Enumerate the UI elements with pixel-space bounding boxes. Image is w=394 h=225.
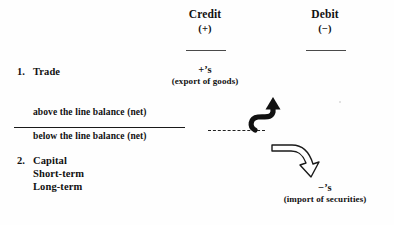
balance-divider-rule (14, 127, 185, 128)
column-header-credit: Credit (189, 8, 221, 20)
credit-column-rule (186, 50, 226, 51)
row-1-credit-entry: +’s (198, 64, 211, 75)
solid-curved-arrow-up-left-icon (246, 94, 290, 134)
column-header-debit: Debit (311, 8, 338, 20)
row-1-label: Trade (33, 66, 60, 77)
outline-curved-arrow-down-right-icon (268, 140, 324, 182)
figure-canvas: Credit (+) Debit (−) 1. Trade +’s (expor… (0, 0, 394, 225)
row-1-credit-note: (export of goods) (172, 76, 239, 86)
column-sign-credit: (+) (198, 23, 211, 34)
debit-column-rule (306, 50, 346, 51)
column-sign-debit: (−) (318, 23, 331, 34)
row-2-sublabel-short-term: Short-term (33, 168, 84, 179)
below-the-line-balance-label: below the line balance (net) (33, 131, 147, 141)
row-2-sublabel-long-term: Long-term (33, 181, 82, 192)
row-2-debit-note: (import of securities) (284, 194, 367, 204)
scan-artifact-speck (339, 101, 341, 103)
row-2-label: Capital (33, 155, 67, 166)
row-2-debit-entry: −’s (318, 182, 331, 193)
above-the-line-balance-label: above the line balance (net) (33, 107, 147, 117)
row-2-number: 2. (17, 155, 25, 166)
row-1-number: 1. (17, 66, 25, 77)
